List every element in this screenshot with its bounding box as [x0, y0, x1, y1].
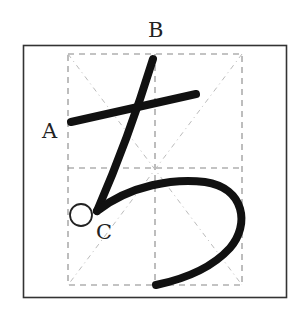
stroke-2-curve — [97, 181, 241, 285]
label-b: B — [148, 20, 163, 41]
diagram-canvas — [0, 0, 306, 315]
stroke-order-diagram: A B C — [0, 0, 306, 315]
label-a: A — [42, 121, 57, 142]
outer-frame — [24, 46, 287, 298]
turn-point-marker — [70, 204, 92, 226]
label-c: C — [96, 222, 112, 243]
